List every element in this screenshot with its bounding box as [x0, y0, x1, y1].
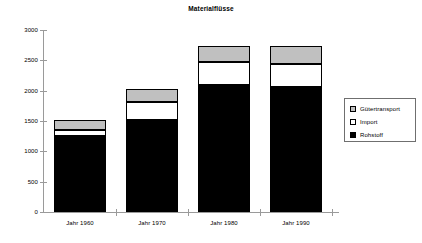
bar-segment-rohstoff[interactable]	[198, 85, 250, 212]
bar-segment-rohstoff[interactable]	[126, 120, 178, 212]
legend-item[interactable]: Rohstoff	[350, 131, 383, 139]
y-tick-label-text: 1500	[10, 118, 38, 124]
y-tick-label-text: 2000	[10, 88, 38, 94]
x-axis-line	[43, 212, 339, 213]
chart-title: Materialflüsse	[0, 4, 422, 13]
bar-segment-rohstoff[interactable]	[54, 136, 106, 212]
x-tick-mark	[332, 209, 333, 216]
y-tick-label-text: 2500	[10, 57, 38, 63]
bar-segment-rohstoff[interactable]	[270, 87, 322, 212]
x-axis-category-label: Jahr 1960	[44, 219, 116, 227]
legend-swatch-icon	[350, 119, 356, 125]
plot-area	[44, 30, 332, 212]
y-tick-label-text: 500	[10, 179, 38, 185]
bar-segment-import[interactable]	[198, 62, 250, 86]
bar-stack[interactable]	[126, 30, 178, 212]
legend-item-label: Gütertransport	[360, 106, 400, 113]
y-tick-label-text: 0	[10, 209, 38, 215]
bar-segment-import[interactable]	[54, 130, 106, 136]
chart-legend: GütertransportImportRohstoff	[344, 98, 416, 142]
x-axis-category-label: Jahr 1970	[116, 219, 188, 227]
bar-segment-import[interactable]	[270, 64, 322, 87]
bar-segment-guetertransport[interactable]	[126, 89, 178, 102]
chart-container: Materialflüsse 300025002000150010005000 …	[0, 0, 422, 243]
y-tick-label: 0	[6, 209, 38, 215]
y-tick-label: 3000	[6, 27, 38, 33]
bar-segment-guetertransport[interactable]	[54, 120, 106, 130]
y-tick-label-text: 1000	[10, 148, 38, 154]
bar-stack[interactable]	[198, 30, 250, 212]
y-tick-label: 1500	[6, 118, 38, 124]
bar-stack[interactable]	[270, 30, 322, 212]
legend-item[interactable]: Import	[350, 118, 378, 126]
legend-swatch-icon	[350, 132, 356, 138]
bar-stack[interactable]	[54, 30, 106, 212]
x-axis-category-label: Jahr 1980	[188, 219, 260, 227]
legend-item-label: Import	[360, 119, 378, 126]
y-tick-label: 2500	[6, 57, 38, 63]
legend-swatch-icon	[350, 106, 356, 112]
y-tick-label-text: 3000	[10, 27, 38, 33]
legend-item[interactable]: Gütertransport	[350, 105, 400, 113]
bar-segment-import[interactable]	[126, 102, 178, 120]
bar-segment-guetertransport[interactable]	[270, 46, 322, 64]
bar-segment-guetertransport[interactable]	[198, 46, 250, 61]
y-tick-label: 500	[6, 179, 38, 185]
legend-item-label: Rohstoff	[360, 132, 383, 139]
y-tick-label: 2000	[6, 88, 38, 94]
y-tick-label: 1000	[6, 148, 38, 154]
x-axis-category-label: Jahr 1990	[260, 219, 332, 227]
y-tick-mark	[40, 212, 47, 213]
